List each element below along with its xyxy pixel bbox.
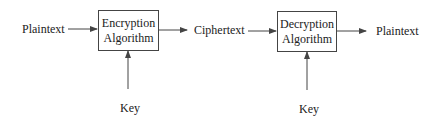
decryption-box-line1: Decryption: [280, 17, 334, 32]
plaintext-output-label: Plaintext: [376, 24, 419, 38]
encryption-algorithm-box: Encryption Algorithm: [98, 10, 159, 51]
decryption-algorithm-box: Decryption Algorithm: [277, 11, 337, 52]
encryption-box-line2: Algorithm: [104, 31, 154, 46]
ciphertext-label: Ciphertext: [194, 23, 245, 37]
decryption-key-label: Key: [299, 102, 319, 116]
encryption-box-line1: Encryption: [102, 16, 155, 31]
plaintext-input-label: Plaintext: [22, 22, 65, 36]
encryption-key-label: Key: [120, 101, 140, 115]
decryption-box-line2: Algorithm: [282, 32, 332, 47]
arrows-layer: [0, 0, 435, 122]
